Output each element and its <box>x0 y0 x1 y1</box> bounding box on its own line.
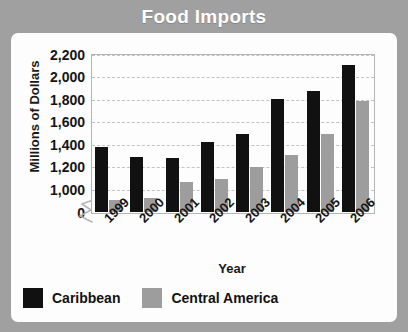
legend-swatch-icon <box>142 288 162 308</box>
x-axis-title: Year <box>91 261 373 276</box>
y-tick-label: 1,000 <box>29 183 85 197</box>
y-tick-label: 1,600 <box>29 115 85 129</box>
plot-wrapper: Millions of Dollars 2,200 2,000 1,800 1,… <box>11 33 397 322</box>
y-tick-label: 1,800 <box>29 93 85 107</box>
legend-swatch-icon <box>23 288 43 308</box>
page-title: Food Imports <box>142 6 267 28</box>
y-tick-label: 1,200 <box>29 160 85 174</box>
legend-item-label: Central America <box>171 290 278 306</box>
chart-title-bar: Food Imports <box>0 0 408 34</box>
chart-card: Food Imports Millions of Dollars 2,200 2… <box>0 0 408 332</box>
legend-item-central-america[interactable]: Central America <box>142 288 278 308</box>
chart-panel: Millions of Dollars 2,200 2,000 1,800 1,… <box>11 33 397 322</box>
x-axis-tick-labels: 19992000200120022003200420052006 <box>91 215 373 263</box>
y-tick-label: 1,400 <box>29 138 85 152</box>
chart-legend: CaribbeanCentral America <box>23 285 385 311</box>
y-tick-label: 2,000 <box>29 70 85 84</box>
legend-item-label: Caribbean <box>52 290 120 306</box>
y-axis-tick-labels: 2,200 2,000 1,800 1,600 1,400 1,200 1,00… <box>29 33 85 322</box>
y-tick-label: 2,200 <box>29 48 85 62</box>
legend-item-caribbean[interactable]: Caribbean <box>23 288 120 308</box>
bar-group <box>91 54 126 212</box>
bar-caribbean-1999[interactable] <box>95 147 108 212</box>
